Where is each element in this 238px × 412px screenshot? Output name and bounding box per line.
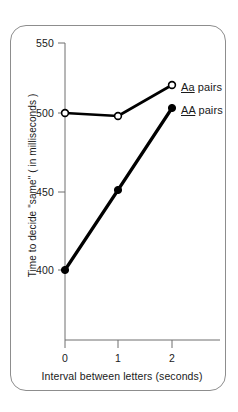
data-point-aa-mixed-1 (115, 113, 122, 120)
series-suffix-aa-mixed: pairs (195, 81, 223, 93)
series-suffix-aa-upper: pairs (195, 104, 223, 116)
data-point-aa-mixed-0 (62, 110, 69, 117)
data-point-aa-upper-2 (168, 104, 175, 111)
x-axis-label: Interval between letters (seconds) (22, 370, 222, 382)
y-axis-label: Time to decide "same" ( in milliseconds … (27, 81, 38, 291)
series-line-aa-mixed (65, 85, 172, 116)
data-point-aa-upper-0 (61, 266, 68, 273)
series-code-aa-upper: AA (181, 104, 195, 116)
x-tick-label-2: 2 (162, 352, 182, 364)
series-label-aa-mixed: Aa pairs (181, 81, 222, 93)
y-tick-label-550: 550 (22, 37, 54, 49)
series-label-aa-upper: AA pairs (181, 104, 223, 116)
figure-container: 550 500 450 400 0 1 2 Time to decide "sa… (0, 0, 238, 412)
data-point-aa-mixed-2 (169, 82, 176, 89)
x-tick-label-1: 1 (108, 352, 128, 364)
series-code-aa-mixed: Aa (181, 81, 195, 93)
x-tick-label-0: 0 (55, 352, 75, 364)
data-point-aa-upper-1 (114, 186, 121, 193)
